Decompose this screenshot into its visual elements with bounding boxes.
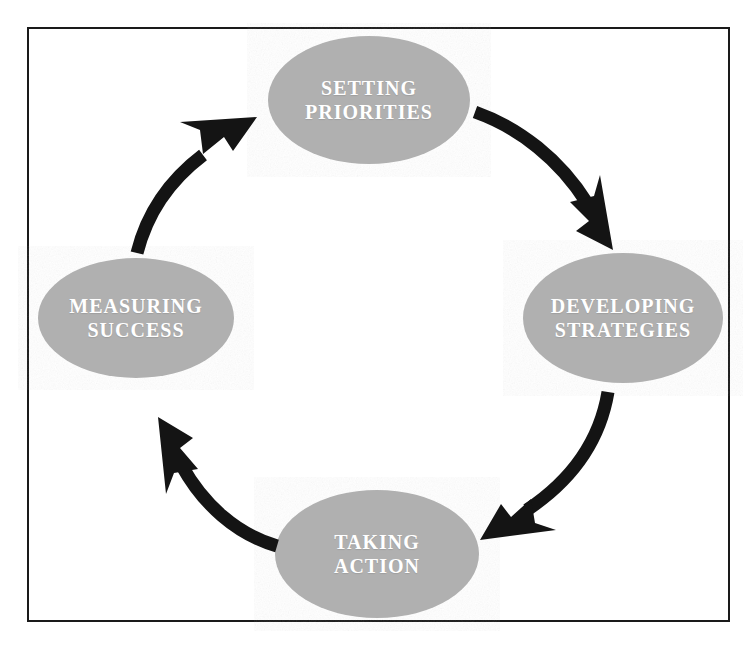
node-ellipse-measuring-success	[38, 258, 234, 378]
cycle-diagram	[0, 0, 753, 650]
curved-arrow-icon	[527, 392, 608, 510]
arrow-head-icon	[180, 117, 257, 154]
node-taking-action[interactable]	[275, 490, 479, 618]
arrow-priorities-to-strategies	[475, 112, 613, 250]
arrow-action-to-measuring	[158, 417, 277, 546]
node-setting-priorities[interactable]	[268, 36, 470, 164]
diagram-page: SETTING PRIORITIES DEVELOPING STRATEGIES…	[0, 0, 753, 650]
curved-arrow-icon	[137, 155, 203, 253]
node-measuring-success[interactable]	[38, 258, 234, 378]
arrow-measuring-to-priorities	[137, 117, 257, 253]
node-ellipse-taking-action	[275, 490, 479, 618]
node-ellipse-setting-priorities	[268, 36, 470, 164]
node-ellipse-developing-strategies	[523, 253, 723, 383]
node-developing-strategies[interactable]	[523, 253, 723, 383]
curved-arrow-icon	[182, 466, 277, 546]
arrow-strategies-to-action	[480, 392, 608, 540]
curved-arrow-icon	[475, 112, 587, 203]
